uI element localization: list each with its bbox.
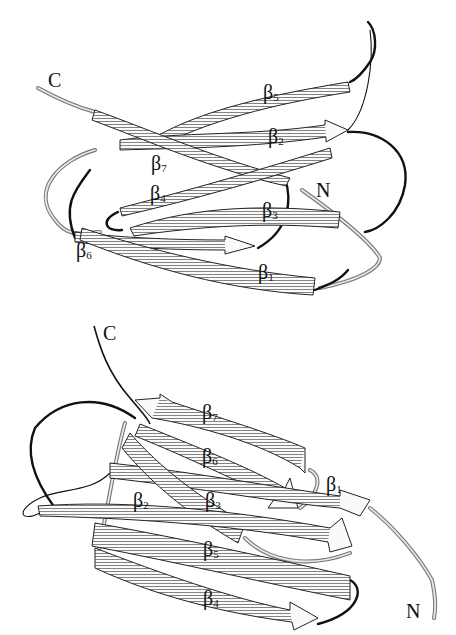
ribbon-view-bottom: C N β7 β6 β1 β2 β3 β5 β4 <box>0 318 456 635</box>
strand-label-b3: β3 <box>262 200 278 225</box>
ribbon-drawing-bottom <box>0 318 456 635</box>
strand-label-b2: β2 <box>268 126 284 151</box>
strand-label-b1: β1 <box>258 262 274 287</box>
c-terminus-label: C <box>103 323 116 343</box>
n-terminus-label: N <box>316 180 330 200</box>
strand-label-b6: β6 <box>202 446 218 471</box>
ribbon-view-top: C N β5 β2 β7 β4 β3 β6 β1 <box>0 0 456 318</box>
strand-label-b2: β2 <box>133 490 149 515</box>
strand-label-b1: β1 <box>326 474 342 499</box>
strand-label-b3: β3 <box>205 490 221 515</box>
strand-label-b5: β5 <box>203 539 219 564</box>
strand-label-b7: β7 <box>151 153 167 178</box>
strand-label-b5: β5 <box>263 82 279 107</box>
c-terminus-label: C <box>48 70 61 90</box>
strand-label-b6: β6 <box>76 240 92 265</box>
strand-label-b4: β4 <box>150 183 166 208</box>
ribbon-drawing-top <box>0 0 456 318</box>
strand-label-b7: β7 <box>202 402 218 427</box>
strand-label-b4: β4 <box>203 588 219 613</box>
n-terminus-label: N <box>406 601 420 621</box>
